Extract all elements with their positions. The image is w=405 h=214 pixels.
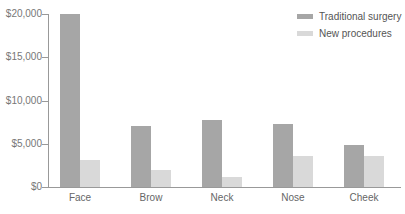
y-tick-label: $15,000: [6, 52, 42, 62]
legend-swatch-traditional: [297, 14, 313, 19]
x-tick-label: Neck: [192, 192, 252, 203]
y-tick-label: $20,000: [6, 9, 42, 19]
y-tick-label: $0: [31, 182, 42, 192]
y-tick-label: $5,000: [11, 139, 42, 149]
bar-chart: $0$5,000$10,000$15,000$20,000 FaceBrowNe…: [0, 0, 405, 214]
y-tick-mark: [42, 144, 48, 145]
x-tick-label: Cheek: [334, 192, 394, 203]
bar-brow-traditional: [131, 126, 151, 187]
bar-face-traditional: [60, 14, 80, 187]
y-tick-mark: [42, 101, 48, 102]
bar-face-new: [80, 160, 100, 187]
bar-nose-traditional: [273, 124, 293, 187]
bar-neck-traditional: [202, 120, 222, 187]
x-tick-label: Brow: [121, 192, 181, 203]
y-tick-label: $10,000: [6, 96, 42, 106]
legend-label: New procedures: [319, 28, 392, 39]
bar-cheek-new: [364, 156, 384, 187]
legend-swatch-new: [297, 31, 313, 36]
bar-nose-new: [293, 156, 313, 187]
y-tick-mark: [42, 187, 48, 188]
legend-item-new: New procedures: [297, 25, 401, 42]
y-tick-mark: [42, 14, 48, 15]
legend-item-traditional: Traditional surgery: [297, 8, 401, 25]
bar-neck-new: [222, 177, 242, 187]
legend: Traditional surgery New procedures: [297, 8, 401, 42]
x-tick-label: Nose: [263, 192, 323, 203]
bar-cheek-traditional: [344, 145, 364, 187]
legend-label: Traditional surgery: [319, 11, 401, 22]
y-axis: [48, 14, 49, 188]
x-axis: [48, 187, 401, 188]
y-tick-mark: [42, 57, 48, 58]
bar-brow-new: [151, 170, 171, 187]
x-tick-label: Face: [50, 192, 110, 203]
